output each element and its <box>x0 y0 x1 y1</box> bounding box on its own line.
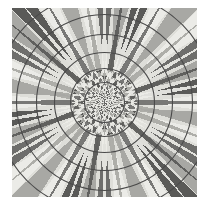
radial-moire-pattern <box>12 8 197 197</box>
figure-canvas <box>0 0 208 209</box>
pattern-group <box>12 8 197 197</box>
